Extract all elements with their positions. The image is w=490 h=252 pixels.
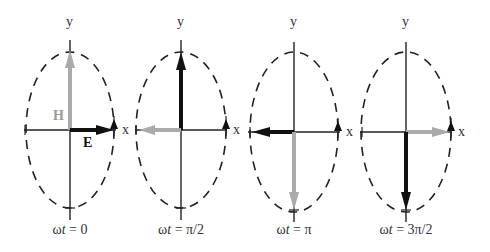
x-axis-label: x — [233, 122, 240, 137]
e-label: E — [83, 135, 92, 150]
y-axis-label: y — [402, 14, 409, 29]
panel-wt-3pi-2: y x ωt = 3π/2 — [360, 14, 465, 237]
panel-wt-pi: y x ωt = π — [248, 14, 353, 237]
panel-wt-0: H E y x ωt = 0 — [24, 14, 129, 237]
panel-wt-pi-2: y x ωt = π/2 — [135, 14, 240, 237]
y-axis-label: y — [290, 14, 297, 29]
x-axis-label: x — [458, 124, 465, 139]
marker-triangle — [222, 119, 230, 129]
polarization-diagram: H E y x ωt = 0 y x ωt = π/2 — [0, 0, 490, 252]
h-arrowhead — [289, 192, 299, 210]
y-axis-label: y — [66, 14, 73, 29]
e-arrowhead — [252, 127, 270, 137]
marker-triangle — [110, 119, 118, 129]
x-axis-label: x — [122, 122, 129, 137]
panel-caption: ωt = 3π/2 — [380, 222, 433, 237]
h-label: H — [53, 108, 64, 123]
x-axis-label: x — [346, 124, 353, 139]
marker-triangle — [334, 121, 342, 131]
panel-caption: ωt = 0 — [52, 222, 87, 237]
h-arrowhead — [432, 127, 450, 137]
e-arrowhead — [176, 52, 186, 70]
marker-triangle — [447, 121, 455, 131]
panel-caption: ωt = π — [276, 222, 311, 237]
e-arrowhead — [401, 192, 411, 210]
h-arrowhead — [139, 125, 155, 135]
panel-caption: ωt = π/2 — [158, 222, 204, 237]
y-axis-label: y — [177, 14, 184, 29]
